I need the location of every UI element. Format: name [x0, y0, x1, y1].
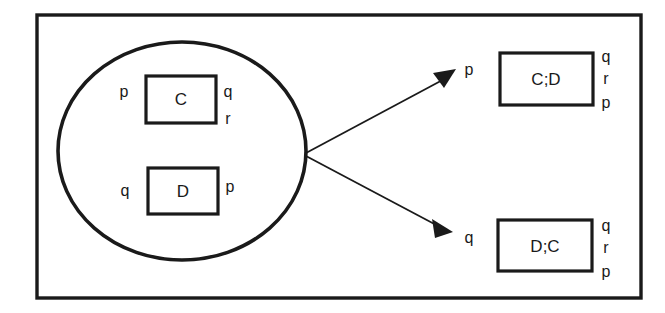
node-cd-right-annotation-p: p [602, 94, 611, 111]
node-c-label: C [175, 90, 187, 109]
node-cd-label: C;D [531, 70, 560, 89]
node-c-right-annotation-r: r [225, 110, 231, 127]
node-dc-right-annotation-r: r [603, 239, 609, 256]
node-dc-right-annotation-q: q [602, 217, 611, 234]
diagram-canvas: C p q r D q p p q C;D q r p D;C q r p [0, 0, 665, 313]
node-c-left-annotation-p: p [120, 83, 129, 100]
node-c-right-annotation-q: q [224, 83, 233, 100]
node-cd-right-annotation-r: r [603, 70, 609, 87]
arrow-to-cd-label: p [465, 61, 474, 78]
node-dc-right-annotation-p: p [602, 263, 611, 280]
diagram-svg: C p q r D q p p q C;D q r p D;C q r p [0, 0, 665, 313]
arrow-to-dc-line [306, 156, 440, 227]
node-dc-label: D;C [530, 237, 559, 256]
node-d-right-annotation-p: p [226, 178, 235, 195]
arrow-to-dc-head [432, 219, 453, 238]
arrow-to-cd-line [306, 76, 450, 153]
arrow-to-dc-label: q [465, 229, 474, 246]
arrow-to-cd-head [433, 69, 456, 88]
node-d-label: D [177, 182, 189, 201]
node-cd-right-annotation-q: q [602, 48, 611, 65]
node-d-left-annotation-q: q [121, 182, 130, 199]
